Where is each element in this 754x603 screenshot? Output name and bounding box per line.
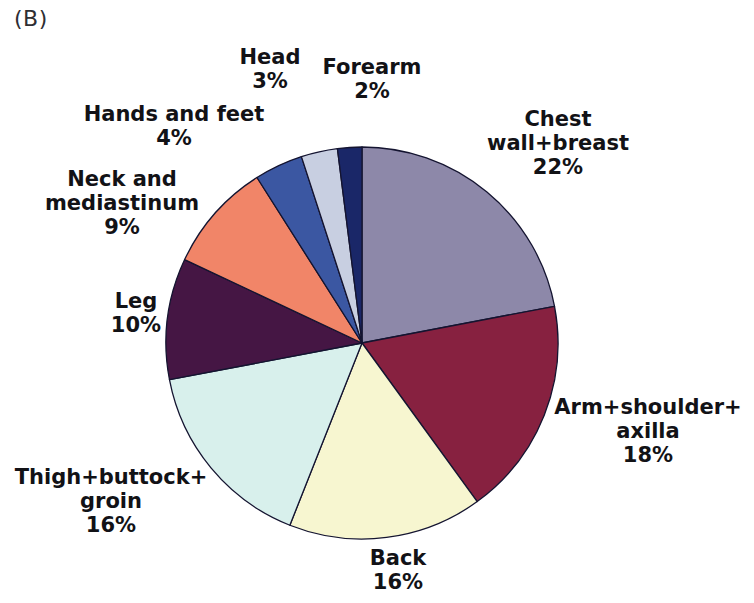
slice-label-thigh-buttock-groin: Thigh+buttock+groin16% [15, 465, 208, 537]
slice-label-line: 9% [45, 215, 199, 239]
slice-label-neck-and-mediastinum: Neck andmediastinum9% [45, 167, 199, 239]
slice-label-line: axilla [554, 419, 741, 443]
slice-label-leg: Leg10% [111, 289, 161, 337]
slice-label-arm-shoulder-axilla: Arm+shoulder+axilla18% [554, 395, 741, 467]
slice-label-chest-wall-breast: Chestwall+breast22% [487, 107, 629, 179]
slice-label-line: Forearm [323, 55, 422, 79]
slice-label-line: 16% [15, 513, 208, 537]
slice-label-line: Head [239, 45, 300, 69]
slice-label-line: Thigh+buttock+ [15, 465, 208, 489]
slice-label-forearm: Forearm2% [323, 55, 422, 103]
slice-label-line: Chest [487, 107, 629, 131]
slice-label-head: Head3% [239, 45, 300, 93]
slice-label-line: Hands and feet [84, 102, 265, 126]
slice-label-line: mediastinum [45, 191, 199, 215]
slice-label-line: 2% [323, 79, 422, 103]
slice-label-hands-and-feet: Hands and feet4% [84, 102, 265, 150]
slice-label-line: 4% [84, 126, 265, 150]
slice-label-line: Neck and [45, 167, 199, 191]
slice-label-line: wall+breast [487, 131, 629, 155]
slice-label-line: 22% [487, 155, 629, 179]
slice-label-line: 10% [111, 313, 161, 337]
slice-label-line: 18% [554, 443, 741, 467]
slice-label-back: Back16% [370, 546, 427, 594]
slice-label-line: Back [370, 546, 427, 570]
slice-label-line: 3% [239, 69, 300, 93]
slice-label-line: groin [15, 489, 208, 513]
slice-label-line: Leg [111, 289, 161, 313]
slice-label-line: Arm+shoulder+ [554, 395, 741, 419]
pie-chart-figure: (B) Chestwall+breast22%Arm+shoulder+axil… [0, 0, 754, 603]
slice-label-line: 16% [370, 570, 427, 594]
